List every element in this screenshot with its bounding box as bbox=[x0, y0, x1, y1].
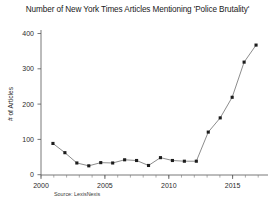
data-point bbox=[219, 116, 222, 119]
y-tick-label-200: 200 bbox=[22, 101, 34, 108]
y-axis-ticks bbox=[38, 34, 42, 175]
y-tick-label-0: 0 bbox=[30, 171, 34, 178]
source-note: Source: LexisNexis bbox=[54, 191, 100, 197]
data-point bbox=[111, 161, 114, 164]
y-tick-label-300: 300 bbox=[22, 65, 34, 72]
data-point bbox=[243, 61, 246, 64]
y-axis-title: # of Articles bbox=[7, 86, 14, 121]
x-tick-label-2000: 2000 bbox=[33, 182, 49, 189]
data-point bbox=[183, 160, 186, 163]
y-axis-tick-labels: 400 300 200 100 0 bbox=[22, 30, 34, 178]
data-point bbox=[207, 131, 210, 134]
series-markers-articles bbox=[51, 44, 257, 168]
data-point bbox=[99, 161, 102, 164]
x-tick-label-2005: 2005 bbox=[97, 182, 113, 189]
data-point bbox=[123, 158, 126, 161]
data-point bbox=[63, 151, 66, 154]
x-axis-major-ticks bbox=[41, 175, 233, 179]
data-point bbox=[51, 142, 54, 145]
data-point bbox=[231, 96, 234, 99]
series-line-articles bbox=[53, 45, 256, 166]
x-tick-label-2015: 2015 bbox=[225, 182, 241, 189]
data-point bbox=[87, 164, 90, 167]
data-point bbox=[255, 44, 258, 47]
data-point bbox=[147, 164, 150, 167]
chart-container: Number of New York Times Articles Mentio… bbox=[0, 0, 275, 209]
chart-plot-area: 400 300 200 100 0 # of Articles bbox=[0, 0, 275, 209]
x-axis-tick-labels: 2000 2005 2010 2015 bbox=[33, 182, 240, 189]
x-tick-label-2010: 2010 bbox=[161, 182, 177, 189]
data-point bbox=[159, 156, 162, 159]
data-point bbox=[195, 160, 198, 163]
data-point bbox=[171, 159, 174, 162]
y-tick-label-100: 100 bbox=[22, 136, 34, 143]
data-point bbox=[75, 161, 78, 164]
data-point bbox=[135, 159, 138, 162]
y-tick-label-400: 400 bbox=[22, 30, 34, 37]
